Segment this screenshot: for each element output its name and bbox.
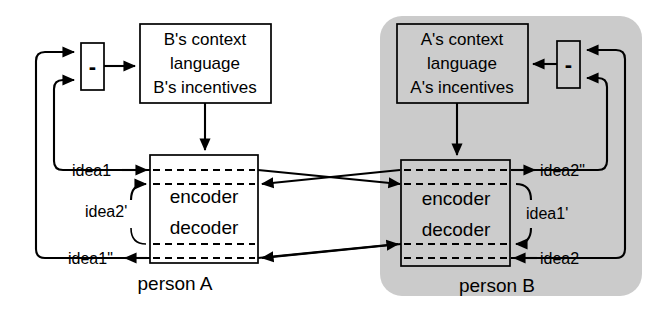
person-b-name-label: person B [459, 275, 535, 296]
person-a-feedback-inner-path [54, 80, 150, 170]
person-a-input-top-label: idea1 [72, 162, 111, 179]
diagram-svg: B's context language B's incentives - en… [0, 0, 661, 322]
person-b-decoder-label: decoder [422, 219, 491, 240]
person-b-feedback-mid-label: idea1' [526, 205, 568, 222]
person-a-context-line1: B's context [164, 30, 247, 49]
transmission-a-to-b-bottom-arrow [258, 244, 398, 258]
diagram-canvas: B's context language B's incentives - en… [0, 0, 661, 322]
person-b-input-bottom-label: idea2 [540, 250, 579, 267]
person-a-decoder-label: decoder [170, 217, 239, 238]
person-a-feedback-mid-hook [131, 184, 146, 200]
person-b-comparator-label: - [565, 52, 572, 77]
person-b-context-line3: A's incentives [410, 78, 513, 97]
person-a-codec-box [150, 155, 258, 263]
person-a-output-bottom-label: idea1" [68, 250, 113, 267]
person-a-comparator-label: - [89, 54, 96, 79]
person-a-context-line3: B's incentives [153, 78, 256, 97]
person-a-decoder-tap-hook [131, 228, 146, 244]
person-a-feedback-mid-label: idea2' [85, 203, 127, 220]
person-a-name-label: person A [138, 273, 213, 294]
person-a-context-line2: language [170, 54, 240, 73]
person-a-encoder-label: encoder [170, 186, 239, 207]
person-b-encoder-label: encoder [422, 188, 491, 209]
person-b-context-line1: A's context [421, 30, 504, 49]
person-b-context-line2: language [427, 54, 497, 73]
person-b-codec-box [401, 160, 510, 266]
person-b-output-top-label: idea2" [540, 162, 585, 179]
